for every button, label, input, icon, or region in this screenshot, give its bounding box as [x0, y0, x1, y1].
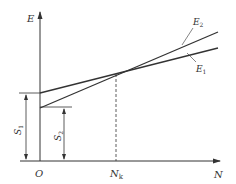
e1-label: E1: [195, 64, 206, 75]
y-axis-label: E: [26, 13, 35, 24]
line-e2: [40, 32, 218, 108]
s1-label: S1: [13, 125, 24, 135]
x-axis-label: N: [213, 169, 224, 180]
e2-leader: [182, 28, 193, 45]
e2-label: E2: [192, 17, 204, 28]
nk-label: Nk: [109, 168, 124, 181]
diagram-canvas: E N O Nk E2 E1 S1 S2: [0, 0, 236, 184]
s2-label: S2: [53, 131, 64, 141]
origin-label: O: [35, 168, 43, 179]
